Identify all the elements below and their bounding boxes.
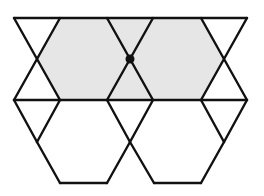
tiling-diagram — [0, 0, 264, 196]
tiling-edge — [37, 100, 60, 142]
tiling-edge — [107, 100, 130, 142]
tiling-edge — [201, 142, 224, 183]
tiling-edge — [201, 100, 224, 142]
marked-vertex-dot — [126, 55, 135, 64]
tiling-edge — [130, 142, 154, 183]
tiling-edge — [107, 142, 130, 183]
tiling-edge — [14, 100, 37, 142]
tiling-edge — [224, 100, 247, 142]
tiling-edge — [37, 142, 60, 183]
tiling-edge — [130, 100, 153, 142]
